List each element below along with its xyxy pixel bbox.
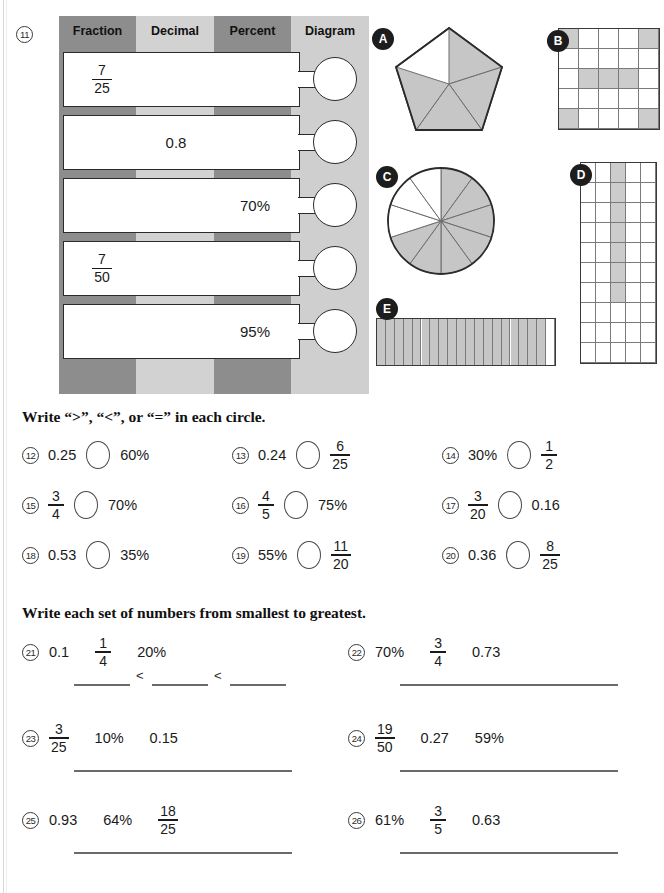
grid-cell [579, 49, 599, 69]
value-text: 20% [137, 644, 166, 660]
bar-segment [395, 319, 404, 365]
grid-cell [626, 223, 641, 243]
cell-percent[interactable]: 95% [215, 304, 295, 359]
cell-decimal[interactable] [137, 52, 215, 107]
item-number: 14 [442, 447, 459, 464]
value-text: 0.24 [258, 447, 286, 463]
grid-cell [579, 69, 599, 89]
row-diagram-answer-circle[interactable] [313, 183, 357, 227]
cell-decimal[interactable] [137, 241, 215, 296]
comparison-answer-circle[interactable] [498, 491, 522, 519]
ordering-item: 210.11420% [22, 632, 166, 672]
fraction: 320 [468, 489, 488, 522]
bar-segment [439, 319, 448, 365]
grid-cell [611, 203, 626, 223]
fraction: 34 [430, 636, 446, 669]
row-diagram-answer-circle[interactable] [313, 246, 357, 290]
answer-blank[interactable] [74, 852, 292, 854]
fraction: 1950 [375, 722, 395, 755]
cell-percent[interactable] [215, 115, 295, 170]
row-diagram-answer-circle[interactable] [313, 57, 357, 101]
grid-cell [599, 109, 619, 129]
bar-segment [511, 319, 520, 365]
fraction: 750 [92, 252, 112, 285]
compare-left-operand: 55% [258, 547, 287, 563]
diagram-a-pentagon [390, 22, 510, 140]
answer-blank[interactable] [400, 684, 618, 686]
fraction-denominator: 4 [97, 654, 109, 669]
cell-percent[interactable]: 70% [215, 178, 295, 233]
comparison-answer-circle[interactable] [74, 491, 98, 519]
ordering-value: 1950 [375, 722, 395, 755]
diagram-label-c: C [376, 166, 398, 188]
item-number-11: 11 [16, 26, 33, 43]
answer-blank[interactable] [400, 852, 618, 854]
bar-segment [546, 319, 555, 365]
grid-cell [641, 263, 656, 283]
fraction-denominator: 25 [158, 822, 178, 837]
ordering-value: 14 [95, 636, 111, 669]
item-number: 19 [232, 547, 249, 564]
grid-cell [611, 323, 626, 343]
ordering-value: 0.15 [150, 730, 178, 746]
grid-cell [611, 303, 626, 323]
value-text: 0.25 [48, 447, 76, 463]
cell-fraction[interactable] [67, 304, 137, 359]
grid-cell [641, 303, 656, 323]
grid-cell [641, 183, 656, 203]
answer-blank[interactable] [74, 684, 130, 686]
fraction: 1825 [158, 804, 178, 837]
comparison-answer-circle[interactable] [297, 541, 321, 569]
cell-decimal[interactable] [137, 178, 215, 233]
cell-fraction[interactable] [67, 115, 137, 170]
cell-fraction[interactable]: 725 [67, 52, 137, 107]
bar-segment [519, 319, 528, 365]
answer-blank[interactable] [400, 770, 618, 772]
ordering-value: 10% [95, 730, 124, 746]
comparison-answer-circle[interactable] [284, 491, 308, 519]
cell-fraction[interactable] [67, 178, 137, 233]
fraction-denominator: 20 [468, 507, 488, 522]
grid-cell [619, 29, 639, 49]
compare-right-operand: 70% [108, 497, 137, 513]
cell-percent[interactable] [215, 241, 295, 296]
grid-cell [579, 89, 599, 109]
cell-decimal[interactable]: 0.8 [137, 115, 215, 170]
value-text: 0.53 [48, 547, 76, 563]
ordering-item: 2661%350.63 [348, 800, 500, 840]
grid-cell [619, 109, 639, 129]
grid-cell [611, 263, 626, 283]
row-diagram-answer-circle[interactable] [313, 120, 357, 164]
comparison-answer-circle[interactable] [506, 541, 530, 569]
comparison-answer-circle[interactable] [86, 441, 110, 469]
comparison-answer-circle[interactable] [507, 441, 531, 469]
grid-cell [639, 69, 659, 89]
fraction-denominator: 4 [50, 507, 62, 522]
row-diagram-answer-circle[interactable] [313, 309, 357, 353]
fraction-denominator: 50 [375, 740, 395, 755]
fraction-numerator: 7 [96, 252, 108, 267]
answer-blank[interactable] [74, 770, 292, 772]
bar-segment [422, 319, 431, 365]
grid-cell [581, 343, 596, 363]
compare-left-operand: 45 [258, 489, 274, 522]
comparison-answer-circle[interactable] [86, 541, 110, 569]
cell-percent[interactable] [215, 52, 295, 107]
value-text: 35% [120, 547, 149, 563]
comparison-answer-circle[interactable] [296, 441, 320, 469]
fraction-numerator: 18 [158, 804, 178, 819]
grid-cell [626, 243, 641, 263]
compare-right-operand: 1120 [331, 539, 351, 572]
grid-cell [641, 283, 656, 303]
cell-fraction[interactable]: 750 [67, 241, 137, 296]
fraction: 34 [48, 489, 64, 522]
value-text: 0.36 [468, 547, 496, 563]
grid-cell [596, 323, 611, 343]
cell-decimal[interactable] [137, 304, 215, 359]
grid-cell [581, 243, 596, 263]
fraction: 45 [258, 489, 274, 522]
diagram-d-grid [580, 162, 657, 364]
answer-blank[interactable] [152, 684, 208, 686]
grid-cell [626, 263, 641, 283]
answer-blank[interactable] [230, 684, 286, 686]
